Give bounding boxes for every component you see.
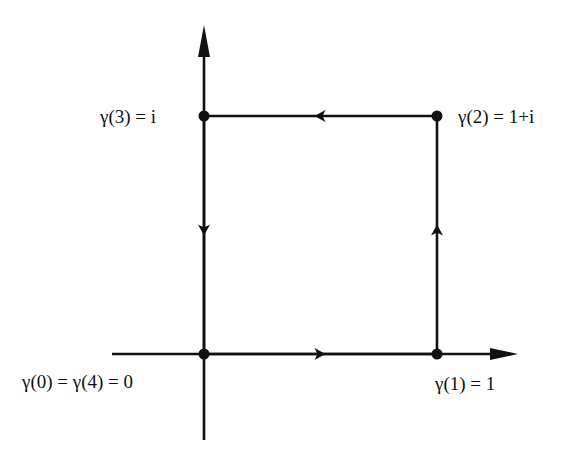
real-axis-arrow-icon: [490, 348, 518, 360]
contour-edges: [198, 110, 443, 360]
point-labels: γ(0) = γ(4) = 0γ(1) = 1γ(2) = 1+iγ(3) = …: [21, 106, 534, 395]
label-gamma1: γ(1) = 1: [434, 373, 495, 395]
label-gamma0: γ(0) = γ(4) = 0: [21, 371, 133, 393]
point-gamma3: [199, 111, 210, 122]
contour-diagram: γ(0) = γ(4) = 0γ(1) = 1γ(2) = 1+iγ(3) = …: [0, 0, 587, 455]
label-gamma3: γ(3) = i: [99, 106, 156, 128]
contour-points: [199, 111, 443, 360]
point-gamma1: [432, 349, 443, 360]
point-gamma2: [432, 111, 443, 122]
label-gamma2: γ(2) = 1+i: [457, 106, 534, 128]
imaginary-axis-arrow-icon: [198, 25, 210, 57]
point-gamma0: [199, 349, 210, 360]
